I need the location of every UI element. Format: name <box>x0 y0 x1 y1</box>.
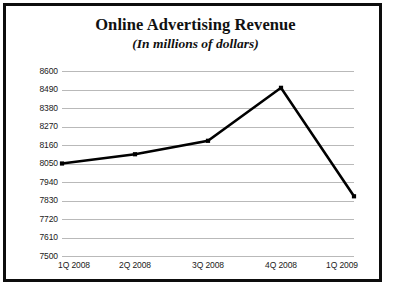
y-axis-tick-label: 7610 <box>12 233 58 242</box>
x-axis-tick-label: 3Q 2008 <box>192 260 224 270</box>
y-axis-tick-label: 7720 <box>12 215 58 224</box>
series-markers <box>60 86 356 199</box>
x-axis-tick-label: 4Q 2008 <box>265 260 297 270</box>
title-block: Online Advertising Revenue (In millions … <box>6 15 385 52</box>
y-axis-tick-label: 7830 <box>12 196 58 205</box>
data-point-marker <box>60 161 64 165</box>
plot-area <box>62 71 354 256</box>
data-series-layer <box>62 71 354 256</box>
data-point-marker <box>206 139 210 143</box>
y-axis-tick-label: 8050 <box>12 159 58 168</box>
y-axis-tick-labels: 8600849083808270816080507940783077207610… <box>10 71 58 256</box>
y-axis-tick-label: 7940 <box>12 178 58 187</box>
data-point-marker <box>279 86 283 90</box>
chart-figure: Online Advertising Revenue (In millions … <box>0 0 395 289</box>
data-point-marker <box>352 194 356 198</box>
y-axis-tick-label: 8270 <box>12 122 58 131</box>
data-point-marker <box>133 152 137 156</box>
x-axis-tick-label: 1Q 2008 <box>58 260 90 270</box>
y-axis-tick-label: 8380 <box>12 104 58 113</box>
chart-subtitle: (In millions of dollars) <box>6 35 385 52</box>
x-axis-tick-labels: 1Q 20082Q 20083Q 20084Q 20081Q 2009 <box>62 260 354 274</box>
x-axis-tick-label: 1Q 2009 <box>326 260 358 270</box>
chart-title: Online Advertising Revenue <box>6 15 385 34</box>
y-axis-tick-label: 8490 <box>12 85 58 94</box>
chart-frame: Online Advertising Revenue (In millions … <box>3 3 382 282</box>
gridline <box>62 256 354 257</box>
y-axis-tick-label: 8600 <box>12 67 58 76</box>
x-axis-tick-label: 2Q 2008 <box>119 260 151 270</box>
y-axis-tick-label: 7500 <box>12 252 58 261</box>
y-axis-tick-label: 8160 <box>12 141 58 150</box>
